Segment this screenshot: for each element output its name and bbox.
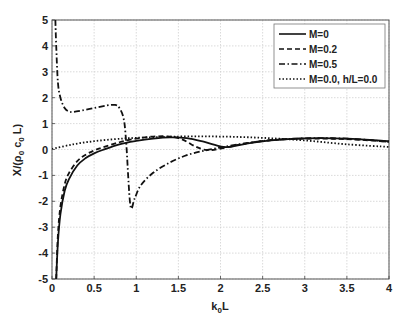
x-tick-label: 0.5 — [86, 282, 101, 294]
x-tick-label: 0 — [49, 282, 55, 294]
y-tick-label: 2 — [42, 92, 48, 104]
x-tick-label: 2.5 — [255, 282, 270, 294]
y-tick-label: -5 — [38, 273, 48, 285]
y-tick-label: 4 — [42, 40, 49, 52]
legend-label: M=0.5 — [309, 59, 338, 70]
y-tick-label: 3 — [42, 66, 48, 78]
legend-label: M=0.0, h/L=0.0 — [309, 74, 378, 85]
y-tick-label: 5 — [42, 14, 48, 26]
legend-label: M=0.2 — [309, 44, 338, 55]
legend-label: M=0 — [309, 29, 329, 40]
y-tick-label: -4 — [38, 247, 49, 259]
y-tick-label: -1 — [38, 169, 48, 181]
y-tick-label: -3 — [38, 221, 48, 233]
y-tick-label: -2 — [38, 195, 48, 207]
x-tick-label: 1.5 — [171, 282, 186, 294]
x-tick-label: 3 — [302, 282, 308, 294]
legend: M=0M=0.2M=0.5M=0.0, h/L=0.0 — [274, 24, 385, 88]
chart: 00.511.522.533.54 -5-4-3-2-1012345 k0L X… — [0, 0, 407, 326]
x-tick-label: 2 — [217, 282, 223, 294]
y-tick-label: 1 — [42, 118, 48, 130]
x-tick-label: 3.5 — [339, 282, 354, 294]
y-tick-label: 0 — [42, 144, 48, 156]
x-tick-label: 4 — [386, 282, 393, 294]
x-tick-label: 1 — [133, 282, 139, 294]
